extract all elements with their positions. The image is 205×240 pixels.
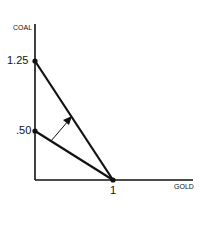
upper-line	[35, 61, 113, 180]
x-tick-1: 1	[110, 184, 116, 196]
y-tick-1-25: 1.25	[7, 54, 28, 66]
lower-line	[35, 131, 113, 180]
point-x-1	[110, 177, 115, 182]
point-0-50	[32, 128, 37, 133]
rotation-arrow	[51, 120, 69, 141]
point-1-25	[32, 58, 37, 63]
y-axis-label: COAL	[13, 24, 32, 31]
arrowhead-icon	[63, 116, 72, 125]
x-axis-label: GOLD	[174, 183, 194, 190]
y-tick-0-50: .50	[16, 124, 31, 136]
